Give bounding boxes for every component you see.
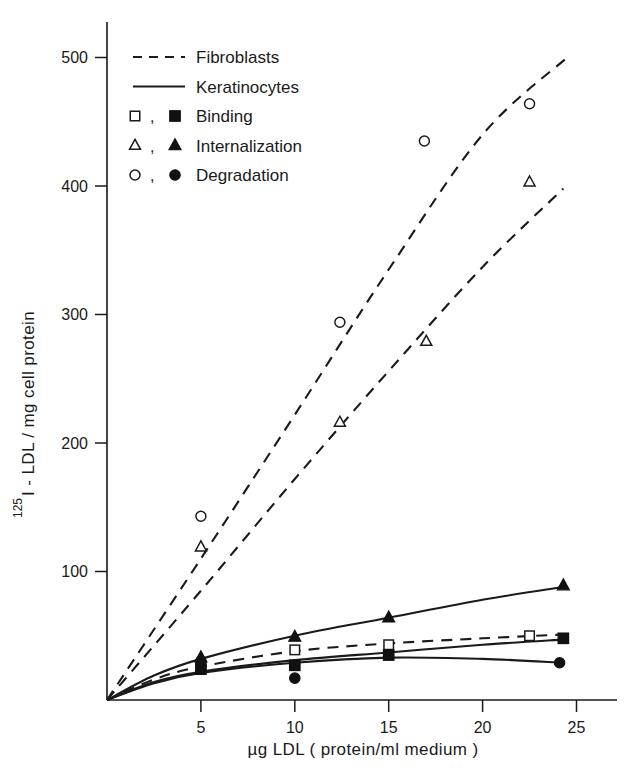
chart-legend: FibroblastsKeratinocytes,Binding,Interna…	[130, 48, 302, 185]
legend-comma: ,	[150, 108, 154, 125]
point-fibroblasts-degradation-2	[419, 136, 429, 146]
point-fibroblasts-internalization-3	[524, 176, 535, 186]
y-axis-title: 125 I - LDL / mg cell protein	[11, 311, 38, 518]
y-tick-label-100: 100	[61, 563, 88, 580]
point-keratinocytes-degradation-1	[290, 673, 300, 683]
curve-keratinocytes-binding	[107, 640, 563, 700]
point-fibroblasts-degradation-3	[525, 99, 535, 109]
legend-comma: ,	[150, 167, 154, 184]
point-fibroblasts-degradation-1	[335, 317, 345, 327]
legend-open-circle-icon	[130, 170, 140, 180]
x-tick-label-10: 10	[286, 719, 304, 736]
point-fibroblasts-degradation-0	[196, 511, 206, 521]
legend-open-triangle-icon	[130, 139, 141, 149]
curve-keratinocytes-degradation	[107, 657, 563, 700]
x-axis-title-text: µg LDL ( protein/ml medium )	[247, 740, 478, 759]
y-tick-label-300: 300	[61, 306, 88, 323]
y-axis-title-text: I - LDL / mg cell protein	[19, 311, 38, 496]
x-tick-label-15: 15	[380, 719, 398, 736]
point-fibroblasts-binding-1	[290, 645, 300, 655]
y-tick-label-400: 400	[61, 178, 88, 195]
chart-curves	[107, 58, 567, 701]
y-axis-title-superscript: 125	[11, 498, 25, 518]
curve-fibroblasts-degradation	[107, 58, 567, 701]
y-tick-label-500: 500	[61, 49, 88, 66]
legend-label-keratinocytes: Keratinocytes	[196, 78, 299, 97]
point-keratinocytes-binding-3	[558, 633, 569, 644]
x-axis-ticks: 510152025	[196, 700, 585, 736]
legend-label-degradation: Degradation	[196, 166, 289, 185]
legend-label-internalization: Internalization	[196, 137, 302, 156]
point-keratinocytes-degradation-0	[196, 656, 206, 666]
point-fibroblasts-internalization-0	[195, 541, 206, 551]
x-tick-label-20: 20	[474, 719, 492, 736]
point-keratinocytes-binding-2	[383, 650, 394, 661]
legend-open-square-icon	[130, 111, 140, 121]
axes	[107, 22, 617, 700]
curve-fibroblasts-internalization	[107, 189, 563, 700]
legend-label-fibroblasts: Fibroblasts	[196, 48, 279, 67]
legend-filled-triangle-icon	[169, 139, 181, 150]
point-fibroblasts-internalization-2	[421, 335, 432, 345]
point-fibroblasts-binding-3	[525, 631, 535, 641]
chart-figure: 100200300400500 510152025 125 I - LDL / …	[0, 0, 625, 780]
point-fibroblasts-binding-2	[384, 640, 394, 650]
y-tick-label-200: 200	[61, 435, 88, 452]
x-tick-label-25: 25	[568, 719, 586, 736]
point-keratinocytes-internalization-3	[557, 579, 569, 590]
legend-filled-square-icon	[170, 111, 181, 122]
chart-plot-area: 100200300400500 510152025 125 I - LDL / …	[0, 0, 625, 780]
y-axis-ticks: 100200300400500	[61, 49, 107, 580]
point-keratinocytes-degradation-2	[554, 658, 564, 668]
legend-comma: ,	[150, 138, 154, 155]
x-tick-label-5: 5	[196, 719, 205, 736]
legend-label-binding: Binding	[196, 107, 253, 126]
point-keratinocytes-binding-1	[290, 660, 301, 671]
legend-filled-circle-icon	[170, 170, 180, 180]
